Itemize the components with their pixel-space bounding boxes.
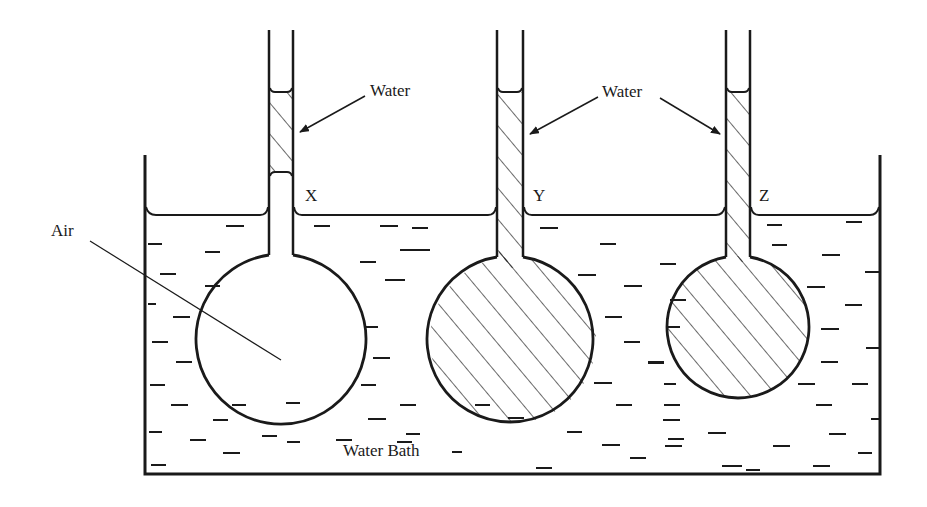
bulb-y <box>427 30 596 423</box>
bulb-x <box>196 30 366 424</box>
arrow-water-y <box>530 97 598 134</box>
label-bulb-z: Z <box>759 186 769 205</box>
label-pointers <box>90 96 720 360</box>
arrow-water-x <box>300 96 365 132</box>
water-column-y <box>498 92 522 262</box>
label-water-yz: Water <box>602 82 642 101</box>
label-water-x: Water <box>370 81 410 100</box>
water-bath-diagram: Water Water X Y Z Air Water Bath <box>0 0 927 507</box>
water-column-z <box>727 92 749 262</box>
water-column-x <box>270 92 292 172</box>
label-bulb-y: Y <box>533 186 545 205</box>
label-bulb-x: X <box>305 186 317 205</box>
label-water-bath: Water Bath <box>343 441 420 460</box>
label-air: Air <box>51 221 74 240</box>
arrow-water-z <box>660 98 720 134</box>
